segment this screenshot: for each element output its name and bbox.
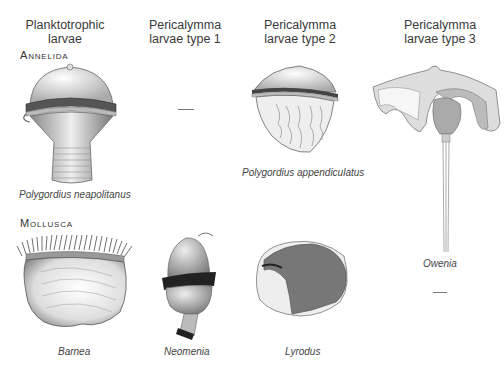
caption-lyrodus: Lyrodus [285,346,320,357]
neomenia-illustration [158,228,228,343]
header-line: Planktotrophic [10,18,120,32]
row-label-annelida: Annelida [20,49,68,61]
header-line: Pericalymma [245,18,355,32]
row-label-mollusca: Mollusca [20,217,73,229]
caption-barnea: Barnea [58,346,90,357]
header-line: larvae type 3 [385,32,495,46]
caption-owenia: Owenia [423,258,457,269]
column-header-planktotrophic: Planktotrophic larvae [10,18,120,46]
header-line: larvae type 2 [245,32,355,46]
owenia-illustration [368,62,503,252]
caption-polygordius-appendiculatus: Polygordius appendiculatus [242,167,364,178]
header-line: Pericalymma [385,18,495,32]
scale-bar [178,109,194,110]
caption-polygordius-neapolitanus: Polygordius neapolitanus [19,189,131,200]
column-header-type2: Pericalymma larvae type 2 [245,18,355,46]
header-line: larvae type 1 [130,32,240,46]
scale-bar [433,292,447,293]
header-line: larvae [10,32,120,46]
barnea-illustration [12,232,137,332]
lyrodus-illustration [252,236,352,321]
polygordius-appendiculatus-illustration [250,64,340,159]
caption-neomenia: Neomenia [164,346,210,357]
column-header-type3: Pericalymma larvae type 3 [385,18,495,46]
column-header-type1: Pericalymma larvae type 1 [130,18,240,46]
polygordius-neapolitanus-illustration [18,62,128,187]
header-line: Pericalymma [130,18,240,32]
